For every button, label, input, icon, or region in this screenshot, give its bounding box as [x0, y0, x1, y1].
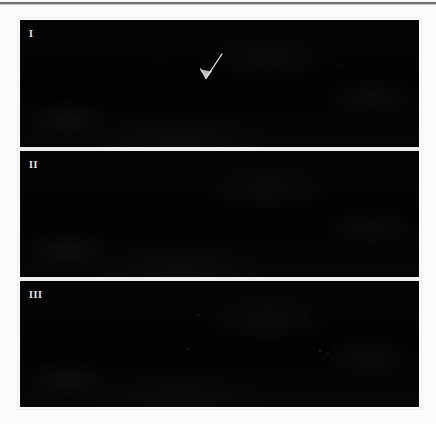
- panel-iii-speckle-texture: [20, 281, 419, 407]
- image-panel-iii: III: [20, 281, 419, 407]
- panel-label-ii: II: [29, 160, 38, 170]
- panel-stack: I: [20, 20, 419, 407]
- arrow-annotation-icon: [196, 51, 228, 85]
- panel-label-iii: III: [29, 290, 42, 300]
- panel-label-i: I: [29, 29, 34, 39]
- panel-i-speckle-texture: [20, 20, 419, 147]
- figure-root: I: [0, 0, 436, 424]
- image-panel-ii: II: [20, 151, 419, 277]
- panel-ii-background-texture: [20, 151, 419, 277]
- panel-i-background-texture: [20, 20, 419, 147]
- top-horizontal-rule-shadow: [0, 4, 436, 5]
- image-panel-i: I: [20, 20, 419, 147]
- panel-iii-background-texture: [20, 281, 419, 407]
- panel-ii-speckle-texture: [20, 151, 419, 277]
